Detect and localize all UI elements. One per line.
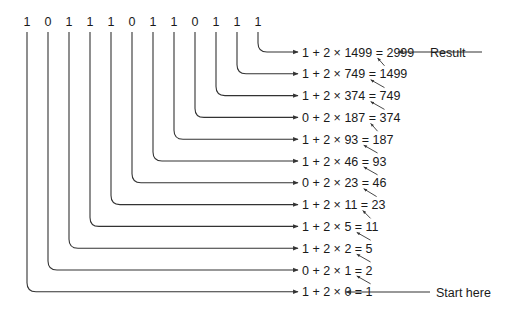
bit-connector-line bbox=[195, 32, 298, 117]
equation-row: 1 + 2 × 749 = 1499 bbox=[302, 67, 407, 81]
bit-digit: 1 bbox=[87, 15, 94, 29]
bit-digit: 0 bbox=[192, 15, 199, 29]
bit-connector-line bbox=[258, 32, 298, 52]
equation-row: 1 + 2 × 5 = 11 bbox=[302, 220, 379, 234]
equation-row: 1 + 2 × 11 = 23 bbox=[302, 198, 386, 212]
bit-digit: 0 bbox=[129, 15, 136, 29]
bit-connector-line bbox=[27, 32, 298, 292]
bit-digit: 1 bbox=[150, 15, 157, 29]
equation-row: 1 + 2 × 93 = 187 bbox=[302, 133, 393, 147]
bit-connector-line bbox=[174, 32, 298, 139]
equation-row: 1 + 2 × 2 = 5 bbox=[302, 242, 373, 256]
equation-row: 1 + 2 × 374 = 749 bbox=[302, 89, 400, 103]
equation-row: 1 + 2 × 46 = 93 bbox=[302, 155, 386, 169]
bit-digit: 1 bbox=[171, 15, 178, 29]
binary-to-decimal-diagram: 101110110111 1 + 2 × 1499 = 29991 + 2 × … bbox=[0, 0, 506, 313]
equation-row: 0 + 2 × 187 = 374 bbox=[302, 111, 400, 125]
bit-row: 101110110111 bbox=[24, 15, 262, 29]
result-label: Result bbox=[430, 46, 466, 60]
bit-digit: 1 bbox=[213, 15, 220, 29]
bit-digit: 1 bbox=[108, 15, 115, 29]
bit-connector-line bbox=[69, 32, 298, 248]
bit-digit: 0 bbox=[45, 15, 52, 29]
side-labels: Result Start here bbox=[346, 46, 491, 300]
start-label: Start here bbox=[436, 286, 491, 300]
bit-digit: 1 bbox=[255, 15, 262, 29]
connector-lines bbox=[27, 32, 298, 292]
equation-rows: 1 + 2 × 1499 = 29991 + 2 × 749 = 14991 +… bbox=[302, 46, 414, 300]
bit-connector-line bbox=[237, 32, 298, 74]
bit-digit: 1 bbox=[24, 15, 31, 29]
bit-digit: 1 bbox=[234, 15, 241, 29]
bit-connector-line bbox=[48, 32, 298, 270]
bit-connector-line bbox=[90, 32, 298, 226]
bit-digit: 1 bbox=[66, 15, 73, 29]
bit-connector-line bbox=[111, 32, 298, 205]
equation-row: 0 + 2 × 23 = 46 bbox=[302, 176, 386, 190]
equation-row: 1 + 2 × 1499 = 2999 bbox=[302, 46, 414, 60]
bit-connector-line bbox=[153, 32, 298, 161]
equation-row: 0 + 2 × 1 = 2 bbox=[302, 264, 373, 278]
bit-connector-line bbox=[216, 32, 298, 96]
